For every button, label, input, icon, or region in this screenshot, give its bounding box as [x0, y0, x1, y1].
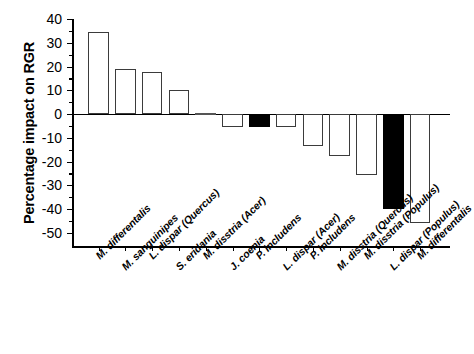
bar-1 [115, 69, 136, 114]
y-tick-minor-neg45 [69, 221, 72, 222]
y-tick-20 [67, 67, 72, 68]
y-tick-0 [67, 114, 72, 115]
x-tick-1 [125, 246, 126, 251]
x-tick-7 [286, 246, 287, 251]
y-tick-label-40: 40 [28, 11, 62, 27]
y-tick-minor-neg15 [69, 150, 72, 151]
y-tick-neg10 [67, 138, 72, 139]
y-tick-minor-35 [69, 31, 72, 32]
y-axis-line [72, 19, 74, 246]
y-tick-minor-neg25 [69, 173, 72, 174]
y-tick-30 [67, 43, 72, 44]
y-tick-label-10: 10 [28, 82, 62, 98]
y-tick-neg30 [67, 185, 72, 186]
y-tick-label-neg40: -40 [28, 201, 62, 217]
y-tick-label-neg10: -10 [28, 130, 62, 146]
y-tick-label-neg20: -20 [28, 154, 62, 170]
bar-3 [169, 90, 190, 114]
y-tick-minor-15 [69, 78, 72, 79]
bar-10 [356, 114, 377, 175]
bar-7 [276, 114, 297, 127]
bar-5 [222, 114, 243, 127]
x-tick-5 [233, 246, 234, 251]
y-tick-neg20 [67, 162, 72, 163]
y-tick-label-neg30: -30 [28, 177, 62, 193]
y-tick-neg50 [67, 233, 72, 234]
y-tick-label-0: 0 [28, 106, 62, 122]
y-tick-10 [67, 90, 72, 91]
bar-9 [329, 114, 350, 156]
y-tick-label-neg50: -50 [28, 225, 62, 241]
bar-2 [142, 72, 163, 114]
y-tick-minor-neg5 [69, 126, 72, 127]
bar-0 [88, 32, 109, 114]
y-tick-neg40 [67, 209, 72, 210]
bar-6 [249, 114, 270, 127]
x-tick-11 [393, 246, 394, 251]
y-tick-minor-5 [69, 102, 72, 103]
y-tick-minor-25 [69, 55, 72, 56]
y-tick-label-20: 20 [28, 59, 62, 75]
x-tick-9 [340, 246, 341, 251]
bar-8 [303, 114, 324, 146]
y-tick-40 [67, 19, 72, 20]
x-tick-3 [179, 246, 180, 251]
y-tick-minor-neg35 [69, 197, 72, 198]
bar-11 [383, 114, 404, 209]
y-tick-label-30: 30 [28, 35, 62, 51]
bar-4 [195, 113, 216, 114]
